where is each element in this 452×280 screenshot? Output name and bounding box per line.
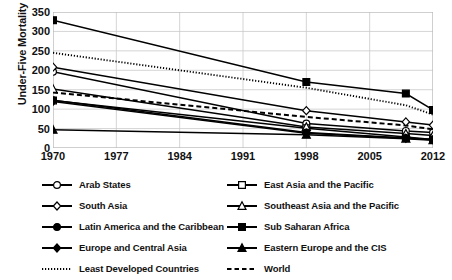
legend-symbol-none xyxy=(40,263,74,275)
legend-label: Sub Saharan Africa xyxy=(264,221,350,232)
legend-label: Arab States xyxy=(79,179,131,190)
legend-label: Eastern Europe and the CIS xyxy=(264,242,387,253)
legend-symbol-square-filled xyxy=(225,221,259,233)
legend-label: East Asia and the Pacific xyxy=(264,179,374,190)
legend-symbol-none xyxy=(225,263,259,275)
x-axis-tick-label: 1991 xyxy=(213,150,273,162)
legend-symbol-square-open xyxy=(225,179,259,191)
legend-symbol-triangle-open xyxy=(225,200,259,212)
legend-item[interactable]: Sub Saharan Africa xyxy=(225,221,440,233)
y-axis-tick-labels: 350300250200150100500 xyxy=(6,0,50,160)
y-axis-tick-label: 150 xyxy=(10,84,50,96)
legend-label: World xyxy=(264,263,290,274)
x-axis-tick-label: 2005 xyxy=(340,150,400,162)
x-axis-tick-label: 1984 xyxy=(150,150,210,162)
legend-symbol-circle-open xyxy=(40,179,74,191)
y-axis-tick-label: 300 xyxy=(10,25,50,37)
chart-legend: Arab StatesEast Asia and the PacificSout… xyxy=(40,174,440,278)
legend-symbol-diamond-open xyxy=(40,200,74,212)
legend-item[interactable]: Least Developed Countries xyxy=(40,263,225,275)
plot-area xyxy=(53,12,433,148)
y-axis-tick-label: 350 xyxy=(10,6,50,18)
legend-label: Europe and Central Asia xyxy=(79,242,187,253)
legend-symbol-diamond-filled xyxy=(40,242,74,254)
x-axis-tick-label: 2012 xyxy=(403,150,452,162)
legend-item[interactable]: World xyxy=(225,263,440,275)
legend-item[interactable]: East Asia and the Pacific xyxy=(225,179,440,191)
y-axis-tick-label: 250 xyxy=(10,45,50,57)
legend-item[interactable]: Eastern Europe and the CIS xyxy=(225,242,440,254)
x-axis-tick-label: 1970 xyxy=(23,150,83,162)
y-axis-tick-label: 50 xyxy=(10,123,50,135)
x-axis-tick-label: 1977 xyxy=(86,150,146,162)
legend-item[interactable]: Latin America and the Caribbean xyxy=(40,221,225,233)
legend-item[interactable]: Europe and Central Asia xyxy=(40,242,225,254)
legend-item[interactable]: Southeast Asia and the Pacific xyxy=(225,200,440,212)
legend-label: Southeast Asia and the Pacific xyxy=(264,200,399,211)
legend-label: Least Developed Countries xyxy=(79,263,199,274)
legend-symbol-circle-filled xyxy=(40,221,74,233)
y-axis-tick-label: 200 xyxy=(10,64,50,76)
y-axis-tick-label: 100 xyxy=(10,103,50,115)
x-axis-tick-label: 1998 xyxy=(276,150,336,162)
line-chart-svg xyxy=(53,12,433,148)
legend-label: South Asia xyxy=(79,200,127,211)
chart-container: Under-Five Mortality 3503002502001501005… xyxy=(0,0,452,280)
legend-symbol-triangle-filled xyxy=(225,242,259,254)
legend-item[interactable]: South Asia xyxy=(40,200,225,212)
legend-item[interactable]: Arab States xyxy=(40,179,225,191)
legend-label: Latin America and the Caribbean xyxy=(79,221,224,232)
